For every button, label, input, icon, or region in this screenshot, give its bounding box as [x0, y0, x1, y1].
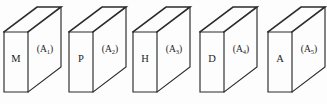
box-2: P(A2): [69, 7, 126, 92]
box-front-label: H: [141, 53, 149, 64]
box-front-label: D: [208, 53, 216, 64]
box-1: M(A1): [4, 7, 61, 92]
box-front-label: P: [78, 53, 84, 64]
box-side-label: (A2): [102, 44, 118, 55]
box-side-label: (A4): [233, 44, 249, 55]
box-diagram-svg: M(A1)P(A2)H(A3)D(A4)A(A5): [0, 0, 327, 104]
box-5: A(A5): [268, 7, 325, 92]
box-side-label: (A3): [166, 44, 182, 55]
box-front-label: M: [11, 53, 21, 64]
box-3: H(A3): [133, 7, 190, 92]
boxes-group: M(A1)P(A2)H(A3)D(A4)A(A5): [4, 7, 325, 92]
box-side-label: (A5): [301, 44, 317, 55]
box-side-label: (A1): [37, 44, 53, 55]
box-4: D(A4): [200, 7, 257, 92]
diagram-canvas: M(A1)P(A2)H(A3)D(A4)A(A5): [0, 0, 327, 104]
box-front-label: A: [276, 53, 284, 64]
